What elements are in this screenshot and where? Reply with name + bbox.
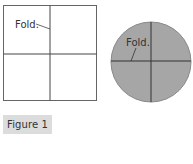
folded-circle: Fold. — [111, 22, 191, 102]
circle-fold-label: Fold. — [126, 37, 150, 48]
figure-caption: Figure 1 — [3, 115, 52, 134]
diagram-canvas: Fold. Fold. — [0, 0, 193, 164]
folded-square: Fold. — [4, 6, 97, 101]
square-fold-label: Fold. — [15, 19, 39, 30]
